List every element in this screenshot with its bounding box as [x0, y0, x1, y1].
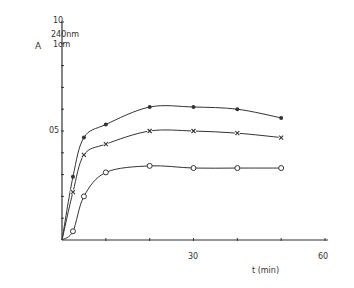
data-point-open-circle: [235, 166, 240, 171]
y-tick-label-0.5: 05: [49, 126, 59, 135]
x-axis-label: t (min): [252, 266, 279, 275]
data-point-filled-circle: [148, 105, 152, 109]
data-point-open-circle: [147, 163, 152, 168]
data-point-filled-circle: [71, 175, 75, 179]
data-point-open-circle: [81, 194, 86, 199]
data-point-open-circle: [103, 170, 108, 175]
series-line-filled-circle: [62, 106, 281, 240]
x-tick-label-30: 30: [188, 252, 198, 261]
data-point-open-circle: [70, 229, 75, 234]
y-axis-label-sub: 1cm: [51, 40, 79, 50]
series-line-open-circle: [62, 166, 281, 240]
x-tick-label-60: 60: [318, 252, 328, 261]
y-axis-label-sup: 240nm: [51, 30, 79, 40]
data-point-open-circle: [191, 166, 196, 171]
y-axis-label-main: A: [35, 41, 41, 51]
y-axis-label-wavelength: 240nm 1cm: [51, 30, 79, 50]
series-line-cross: [62, 130, 281, 240]
data-point-open-circle: [279, 166, 284, 171]
data-point-filled-circle: [235, 107, 239, 111]
data-point-filled-circle: [192, 105, 196, 109]
data-point-filled-circle: [279, 116, 283, 120]
y-tick-label-1.0: 10: [53, 16, 63, 25]
data-point-filled-circle: [104, 122, 108, 126]
data-point-filled-circle: [82, 136, 86, 140]
